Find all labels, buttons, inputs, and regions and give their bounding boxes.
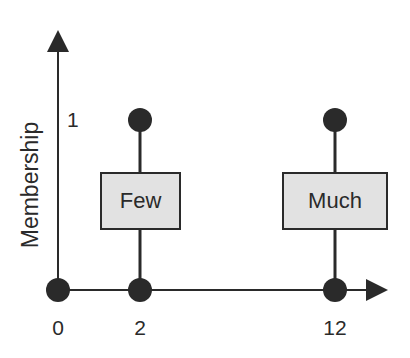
y-axis-label: Membership [17, 122, 44, 249]
x-tick-0: 0 [52, 316, 64, 340]
point-much-base [323, 278, 347, 302]
x-axis-arrow-icon [366, 279, 388, 301]
y-tick-1: 1 [67, 108, 79, 132]
few-box: Few [100, 172, 181, 230]
much-label: Much [308, 188, 362, 214]
point-much-top [323, 108, 347, 132]
much-box: Much [282, 172, 388, 230]
few-label: Few [120, 188, 162, 214]
point-few-top [128, 108, 152, 132]
point-origin [46, 278, 70, 302]
y-axis-arrow-icon [47, 30, 69, 52]
point-few-base [128, 278, 152, 302]
x-tick-12: 12 [323, 316, 346, 340]
x-tick-2: 2 [134, 316, 146, 340]
